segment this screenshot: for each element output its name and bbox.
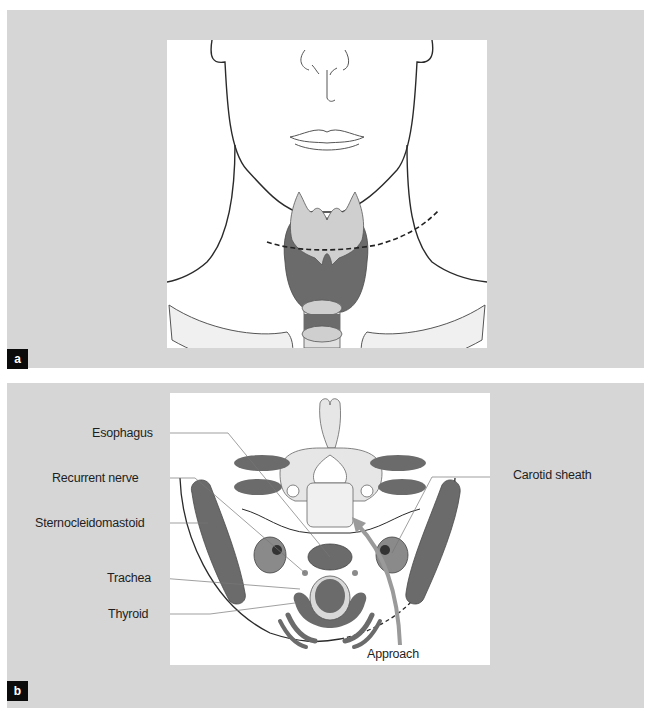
recurrent-nerve-right [352, 570, 358, 576]
left-clavicle [169, 305, 293, 348]
label-approach: Approach [367, 647, 419, 661]
label-carotid-sheath: Carotid sheath [513, 468, 592, 482]
label-sternocleidomastoid: Sternocleidomastoid [35, 516, 144, 530]
neck-cross-section-illustration [170, 393, 490, 665]
label-trachea: Trachea [107, 571, 151, 585]
foramen-left [287, 485, 299, 497]
neck-cross-section-svg [170, 393, 490, 665]
panel-letter-a: a [7, 349, 28, 369]
neck-right-outline [407, 145, 487, 282]
carotid-artery-left [272, 545, 282, 555]
neck-frontal-svg [167, 40, 487, 348]
deep-muscle-right-lower [378, 479, 426, 495]
jaw-outline [211, 40, 433, 212]
label-thyroid: Thyroid [108, 607, 148, 621]
panel-b: Esophagus Recurrent nerve Sternocleidoma… [7, 383, 644, 708]
deep-muscle-right-upper [370, 455, 426, 471]
trachea-lumen [315, 579, 345, 613]
deep-muscle-left-upper [234, 455, 290, 471]
label-esophagus: Esophagus [92, 426, 153, 440]
foramen-right [361, 485, 373, 497]
neck-frontal-illustration [167, 40, 487, 348]
label-recurrent-nerve: Recurrent nerve [52, 471, 139, 485]
spinous-process [320, 399, 341, 448]
tracheal-ring-1 [302, 300, 342, 316]
tracheal-ring-2 [302, 326, 342, 342]
vertebral-body [307, 483, 353, 527]
panel-letter-b: b [7, 681, 28, 701]
neck-left-outline [167, 145, 235, 282]
right-clavicle [361, 305, 485, 348]
deep-muscle-left-lower [234, 479, 282, 495]
carotid-artery-right [380, 545, 390, 555]
leader-thyroid-b [210, 603, 295, 614]
nose-outline [301, 50, 349, 101]
sternocleidomastoid-right [406, 480, 460, 604]
lips-outline [290, 130, 364, 150]
panel-a: a [7, 10, 644, 368]
